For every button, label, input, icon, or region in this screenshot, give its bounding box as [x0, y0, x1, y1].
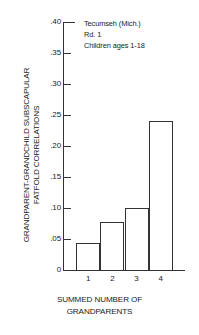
y-tick-0: 0 [64, 270, 71, 271]
x-axis-title: SUMMED NUMBER OF GRANDPARENTS [0, 294, 199, 317]
x-axis-line [63, 270, 185, 271]
y-tick-label: .40 [50, 17, 61, 26]
bar-2 [100, 222, 124, 270]
y-tick-label: .30 [50, 79, 61, 88]
bar-3 [125, 208, 149, 270]
y-tick-label: .35 [50, 48, 61, 57]
bar-4 [149, 121, 173, 270]
y-tick-label: 0 [57, 265, 61, 274]
y-tick-label: .10 [50, 203, 61, 212]
y-axis-title: GRANDPARENT-GRANDCHILD SUBSCAPULAR FATFO… [17, 35, 47, 275]
y-tick-label: .25 [50, 110, 61, 119]
y-tick-label: .15 [50, 172, 61, 181]
x-tick-label-3: 3 [134, 274, 138, 283]
y-tick-label: .05 [50, 234, 61, 243]
x-axis-title-line-1: SUMMED NUMBER OF [0, 294, 199, 306]
annotation-line-3: Children ages 1-18 [84, 40, 145, 51]
x-tick-label-4: 4 [159, 274, 163, 283]
x-tick-label-1: 1 [86, 274, 90, 283]
x-tick-label-2: 2 [110, 274, 114, 283]
bar-chart-figure: GRANDPARENT-GRANDCHILD SUBSCAPULAR FATFO… [0, 0, 199, 335]
x-axis-title-line-2: GRANDPARENTS [0, 306, 199, 318]
bar-1 [76, 243, 100, 270]
y-tick-label: .20 [50, 141, 61, 150]
annotation-line-1: Tecumseh (Mich.) [84, 18, 145, 29]
bar-series [64, 22, 185, 270]
y-axis-title-line-1: GRANDPARENT-GRANDCHILD SUBSCAPULAR [22, 68, 32, 243]
annotation-block: Tecumseh (Mich.) Rd. 1 Children ages 1-1… [84, 18, 145, 51]
y-axis-title-line-2: FATFOLD CORRELATIONS [32, 106, 42, 204]
plot-area: .40.35.30.25.20.15.10.050 1234 [63, 22, 185, 270]
annotation-line-2: Rd. 1 [84, 29, 145, 40]
